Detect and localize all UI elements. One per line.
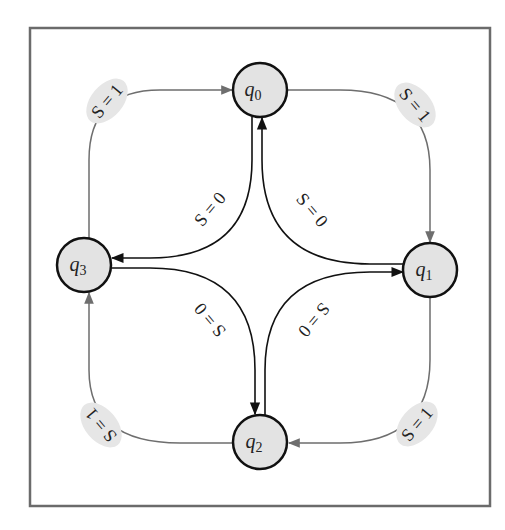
state-q1: q1 (403, 243, 457, 297)
state-diagram: S = 1 S = 1 S = 1 S = 1 S = 0 S = 0 S = … (0, 0, 505, 530)
state-q3: q3 (57, 238, 111, 292)
state-q0: q0 (233, 63, 287, 117)
state-q2: q2 (233, 415, 287, 469)
